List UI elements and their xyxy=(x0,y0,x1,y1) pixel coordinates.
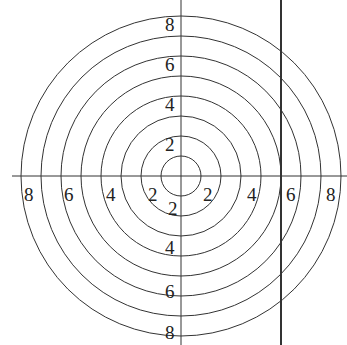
label-right-4: 4 xyxy=(247,184,257,205)
label-right-8: 8 xyxy=(326,184,336,205)
label-top-8: 8 xyxy=(165,14,175,35)
label-right-2: 2 xyxy=(203,184,213,205)
label-left-8: 8 xyxy=(24,184,34,205)
label-bottom-6: 6 xyxy=(165,281,175,302)
label-top-4: 4 xyxy=(165,94,175,115)
label-bottom-8: 8 xyxy=(165,322,175,343)
label-left-4: 4 xyxy=(106,184,116,205)
label-bottom-2: 2 xyxy=(168,198,178,219)
label-left-6: 6 xyxy=(64,184,74,205)
target-diagram: 8 6 4 2 2 4 6 8 8 6 4 2 2 4 6 8 xyxy=(0,0,347,345)
label-top-2: 2 xyxy=(165,134,175,155)
label-right-6: 6 xyxy=(286,184,296,205)
label-bottom-4: 4 xyxy=(165,237,175,258)
label-top-6: 6 xyxy=(165,54,175,75)
label-left-2: 2 xyxy=(148,184,158,205)
